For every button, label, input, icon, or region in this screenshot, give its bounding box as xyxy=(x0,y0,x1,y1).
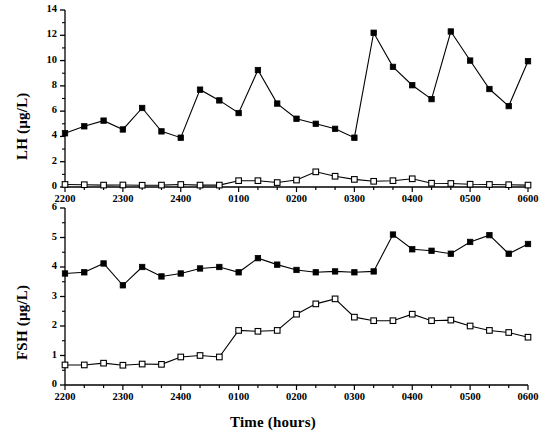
x-tick-label: 0600 xyxy=(504,193,546,204)
data-point-open xyxy=(506,330,512,336)
data-point-filled xyxy=(506,251,511,256)
x-tick-label: 0400 xyxy=(388,391,436,402)
data-point-filled xyxy=(313,270,318,275)
fsh-plot-area xyxy=(0,200,546,415)
data-point-filled xyxy=(487,232,492,237)
data-point-open xyxy=(101,360,107,366)
data-point-filled xyxy=(120,283,125,288)
data-point-open xyxy=(159,182,165,188)
data-point-open xyxy=(487,328,493,334)
y-tick-label: 0 xyxy=(29,180,57,191)
x-tick-label: 0100 xyxy=(215,391,263,402)
data-point-filled xyxy=(217,264,222,269)
x-tick-label: 0100 xyxy=(215,193,263,204)
data-point-open xyxy=(81,182,87,188)
data-point-open xyxy=(390,178,396,184)
x-tick-label: 0200 xyxy=(273,193,321,204)
data-point-filled xyxy=(448,29,453,34)
data-point-open xyxy=(217,354,223,360)
y-tick-label: 4 xyxy=(29,129,57,140)
data-point-filled xyxy=(506,103,511,108)
x-tick-label: 0200 xyxy=(273,391,321,402)
data-point-filled xyxy=(275,101,280,106)
x-tick-label: 2400 xyxy=(157,391,205,402)
y-tick-label: 2 xyxy=(29,155,57,166)
data-point-filled xyxy=(139,264,144,269)
data-point-filled xyxy=(120,127,125,132)
y-tick-label: 8 xyxy=(29,79,57,90)
data-point-filled xyxy=(467,58,472,63)
data-point-filled xyxy=(139,105,144,110)
data-point-filled xyxy=(294,267,299,272)
data-point-open xyxy=(294,177,300,183)
data-point-filled xyxy=(390,64,395,69)
data-point-open xyxy=(506,182,512,188)
lh-plot-area xyxy=(0,0,546,215)
y-tick-label: 4 xyxy=(29,260,57,271)
data-point-filled xyxy=(255,67,260,72)
data-point-open xyxy=(313,169,319,175)
y-tick-label: 12 xyxy=(29,28,57,39)
series-line xyxy=(65,235,528,286)
figure-root: LH (µg/L) FSH (µg/L) Time (hours) 024681… xyxy=(0,0,546,436)
data-point-filled xyxy=(352,270,357,275)
data-point-open xyxy=(371,179,377,185)
x-tick-label: 2200 xyxy=(41,391,89,402)
x-tick-label: 0500 xyxy=(446,193,494,204)
data-point-filled xyxy=(294,116,299,121)
data-point-open xyxy=(467,181,473,187)
y-tick-label: 6 xyxy=(29,201,57,212)
data-point-open xyxy=(197,353,203,359)
data-point-filled xyxy=(371,269,376,274)
data-point-filled xyxy=(82,124,87,129)
data-point-open xyxy=(390,318,396,324)
x-tick-label: 2300 xyxy=(99,391,147,402)
y-tick-label: 6 xyxy=(29,104,57,115)
data-point-open xyxy=(525,182,531,188)
data-point-filled xyxy=(467,239,472,244)
data-point-open xyxy=(236,178,242,184)
data-point-filled xyxy=(313,121,318,126)
data-point-filled xyxy=(159,274,164,279)
data-point-filled xyxy=(525,241,530,246)
data-point-open xyxy=(217,182,223,188)
x-tick-label: 0400 xyxy=(388,193,436,204)
data-point-filled xyxy=(197,87,202,92)
data-point-open xyxy=(255,178,261,184)
data-point-filled xyxy=(101,261,106,266)
data-point-open xyxy=(409,176,415,182)
data-point-open xyxy=(120,182,126,188)
data-point-open xyxy=(274,180,280,186)
x-tick-label: 0500 xyxy=(446,391,494,402)
y-tick-label: 1 xyxy=(29,349,57,360)
data-point-open xyxy=(120,362,126,368)
y-tick-label: 14 xyxy=(29,3,57,14)
data-point-open xyxy=(487,182,493,188)
data-point-open xyxy=(139,182,145,188)
y-tick-label: 5 xyxy=(29,231,57,242)
data-point-open xyxy=(448,317,454,323)
data-point-filled xyxy=(62,271,67,276)
data-point-open xyxy=(332,173,338,179)
data-point-filled xyxy=(178,271,183,276)
data-point-open xyxy=(352,177,358,183)
data-point-open xyxy=(332,296,338,302)
data-point-open xyxy=(352,314,358,320)
data-point-filled xyxy=(159,129,164,134)
x-tick-label: 0300 xyxy=(330,391,378,402)
y-tick-label: 3 xyxy=(29,290,57,301)
data-point-filled xyxy=(255,255,260,260)
y-tick-label: 0 xyxy=(29,378,57,389)
data-point-filled xyxy=(410,83,415,88)
data-point-open xyxy=(139,361,145,367)
data-point-filled xyxy=(332,269,337,274)
data-point-filled xyxy=(82,270,87,275)
data-point-filled xyxy=(178,135,183,140)
data-point-open xyxy=(255,329,261,335)
data-point-open xyxy=(448,181,454,187)
data-point-filled xyxy=(236,270,241,275)
x-tick-label: 0300 xyxy=(330,193,378,204)
x-axis-title: Time (hours) xyxy=(0,414,546,431)
data-point-filled xyxy=(429,248,434,253)
data-point-open xyxy=(294,311,300,317)
